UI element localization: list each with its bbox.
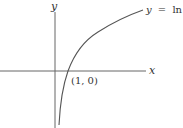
ln-graph: y x (1, 0) y = ln x [0, 0, 183, 128]
point-label: (1, 0) [71, 75, 98, 86]
curve-label-y: y [145, 4, 152, 15]
curve-label-eq: = [158, 4, 166, 15]
x-axis-label: x [149, 64, 156, 77]
curve-label: y = ln x [145, 4, 183, 15]
y-axis-label: y [50, 0, 58, 13]
curve-label-fn: ln [172, 4, 182, 15]
ln-curve [59, 10, 143, 125]
